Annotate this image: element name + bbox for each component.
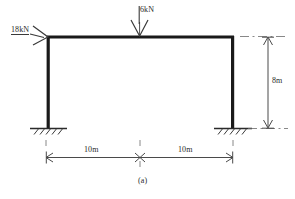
horizontal-load-label: 18kN: [11, 25, 29, 35]
left-support-hatching: [34, 129, 63, 135]
vertical-load-label: 6kN: [140, 5, 154, 14]
height-dimension-label: 8m: [272, 76, 282, 85]
span-dimensions: [46, 140, 233, 167]
figure-caption: (a): [138, 176, 147, 185]
right-support-hatching: [218, 129, 247, 135]
right-fixed-support: [214, 129, 252, 135]
frame-members: [47, 36, 234, 128]
span-right-dimension-label: 10m: [178, 145, 193, 154]
structural-frame-figure: 18kN 6kN 8m 10m 10m (a): [0, 0, 295, 199]
left-fixed-support: [30, 129, 67, 135]
frame-drawing: [0, 0, 295, 199]
span-left-dimension-label: 10m: [84, 145, 99, 154]
horizontal-load-arrow: [30, 26, 48, 45]
horizontal-load-arrow-shaft: [30, 34, 44, 38]
